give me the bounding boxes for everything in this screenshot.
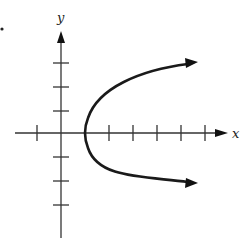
x-axis-arrow-icon [215,129,228,137]
y-axis-arrow-icon [57,31,65,43]
y-axis [53,40,69,238]
parabola-graph: y x [0,0,249,242]
y-axis-label: y [56,10,65,25]
x-axis-label: x [232,126,240,141]
x-axis [15,125,220,141]
curve-lower-arrow-icon [185,178,198,188]
marker-dot [0,27,3,30]
parabola-curve [85,64,188,182]
curve-upper-arrow-icon [185,58,198,68]
